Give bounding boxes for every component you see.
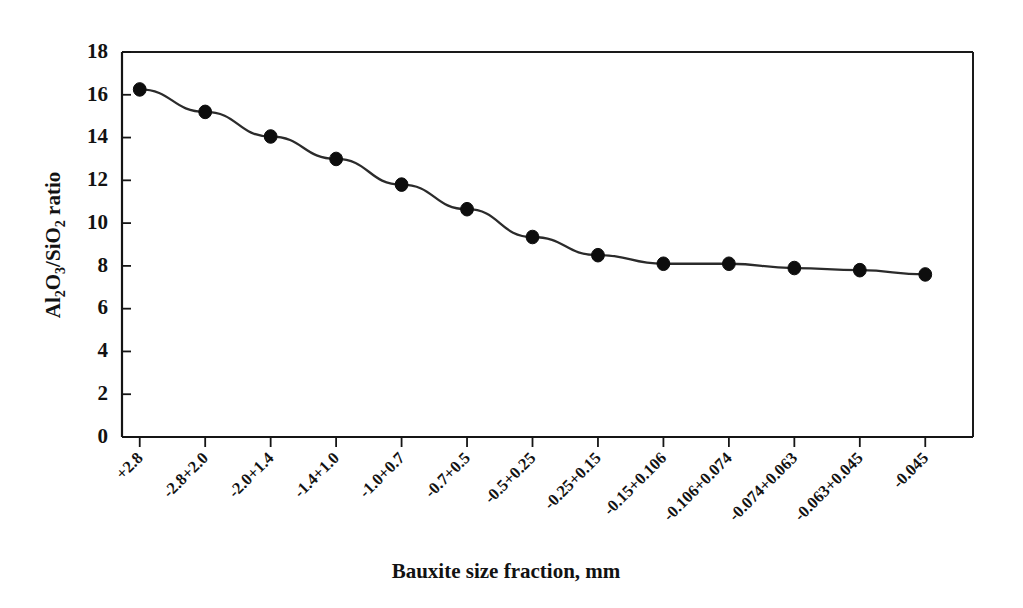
x-tick-label: -0.7+0.5 bbox=[421, 448, 474, 501]
x-axis-ticks: +2.8-2.8+2.0-2.0+1.4-1.4+1.0-1.0+0.7-0.7… bbox=[112, 437, 932, 525]
x-tick-label: -0.106+0.074 bbox=[659, 448, 735, 524]
data-point-marker: -0.7+0.5: 10.65 bbox=[461, 202, 474, 216]
y-axis-title: Al2O3/SiO2 ratio bbox=[41, 172, 68, 318]
data-point-marker: -0.063+0.045: 7.8 bbox=[853, 263, 866, 277]
data-point-marker: -0.074+0.063: 7.9 bbox=[788, 261, 801, 275]
data-point-marker: -0.15+0.106: 8.1 bbox=[657, 257, 670, 271]
plot-frame bbox=[122, 52, 973, 437]
chart-page: 024681012141618 +2.8-2.8+2.0-2.0+1.4-1.4… bbox=[0, 0, 1023, 608]
line-chart-figure: 024681012141618 +2.8-2.8+2.0-2.0+1.4-1.4… bbox=[0, 0, 1023, 608]
x-tick-label: -0.045 bbox=[889, 448, 933, 492]
y-tick-label: 4 bbox=[98, 338, 109, 362]
y-tick-label: 0 bbox=[98, 424, 109, 448]
data-point-marker: -0.106+0.074: 8.1 bbox=[722, 257, 735, 271]
y-tick-label: 14 bbox=[87, 124, 109, 148]
x-tick-label: -2.0+1.4 bbox=[224, 448, 277, 501]
x-tick-label: -0.074+0.063 bbox=[725, 448, 801, 524]
x-axis-title: Bauxite size fraction, mm bbox=[392, 559, 621, 583]
data-point-marker: +2.8: 16.25 bbox=[133, 83, 146, 97]
data-point-marker: -2.8+2.0: 15.2 bbox=[199, 105, 212, 119]
y-axis-title-text: Al2O3/SiO2 ratio bbox=[41, 172, 68, 318]
data-point-marker: -0.045: 7.6 bbox=[919, 268, 932, 282]
y-tick-label: 10 bbox=[87, 210, 108, 234]
y-tick-label: 2 bbox=[98, 381, 109, 405]
data-series bbox=[140, 89, 926, 274]
data-point-marker: -2.0+1.4: 14.05 bbox=[264, 130, 277, 144]
plot-svg: 024681012141618 +2.8-2.8+2.0-2.0+1.4-1.4… bbox=[0, 0, 1023, 608]
y-tick-label: 6 bbox=[98, 295, 109, 319]
x-tick-label: -1.0+0.7 bbox=[355, 448, 408, 501]
x-tick-label: -0.5+0.25 bbox=[480, 448, 539, 507]
x-tick-label: -0.25+0.15 bbox=[540, 448, 605, 513]
data-point-marker: -0.25+0.15: 8.5 bbox=[592, 248, 605, 262]
x-tick-label: +2.8 bbox=[112, 448, 147, 483]
data-point-marker: -1.0+0.7: 11.8 bbox=[395, 178, 408, 192]
data-point-marker: -0.5+0.25: 9.35 bbox=[526, 230, 539, 244]
data-point-marker: -1.4+1.0: 13 bbox=[330, 152, 343, 166]
x-tick-label: -1.4+1.0 bbox=[290, 448, 343, 501]
x-tick-label: -2.8+2.0 bbox=[159, 448, 212, 501]
y-tick-label: 8 bbox=[98, 253, 109, 277]
y-axis-ticks: 024681012141618 bbox=[87, 39, 131, 448]
data-point-markers: +2.8: 16.25-2.8+2.0: 15.2-2.0+1.4: 14.05… bbox=[133, 83, 931, 282]
y-tick-label: 16 bbox=[87, 82, 108, 106]
x-tick-label: -0.15+0.106 bbox=[600, 448, 671, 519]
y-tick-label: 12 bbox=[87, 167, 108, 191]
y-tick-label: 18 bbox=[87, 39, 108, 63]
x-tick-label: -0.063+0.045 bbox=[790, 448, 866, 524]
series-line-al2o3-sio2 bbox=[140, 89, 926, 274]
